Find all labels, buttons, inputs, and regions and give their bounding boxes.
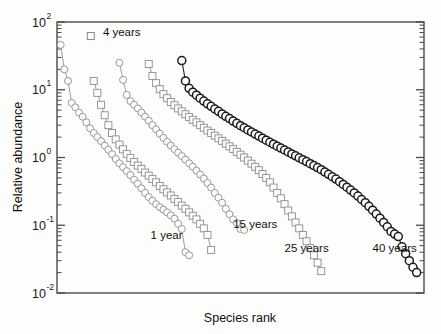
data-point xyxy=(314,259,321,266)
data-point xyxy=(61,66,68,73)
data-point xyxy=(94,89,101,96)
y-tick-label: 10 xyxy=(32,287,46,301)
y-tick-label: 10 xyxy=(32,83,46,97)
x-axis-title: Species rank xyxy=(204,311,277,325)
data-point xyxy=(204,231,211,238)
y-tick-exponent: -1 xyxy=(47,214,55,224)
legend-marker-4-years xyxy=(87,33,94,40)
y-tick-label: 10 xyxy=(32,16,46,30)
data-point xyxy=(120,76,127,83)
data-point xyxy=(296,225,303,232)
y-tick-exponent: 1 xyxy=(47,78,52,88)
series-annotations: 1 year4 years15 years25 years40 years xyxy=(87,26,417,254)
rank-abundance-figure: 10210110010-110-2 1 year4 years15 years2… xyxy=(0,0,441,334)
data-point xyxy=(149,72,156,79)
series-label-15-years: 15 years xyxy=(233,218,277,230)
y-tick-exponent: 0 xyxy=(47,146,52,156)
data-point xyxy=(98,101,105,108)
data-point xyxy=(123,91,130,98)
series-label-40-years: 40 years xyxy=(373,242,417,254)
series-label-4-years: 4 years xyxy=(103,26,141,38)
data-point xyxy=(413,269,421,277)
data-point xyxy=(101,112,108,119)
y-tick-exponent: 2 xyxy=(47,11,52,21)
y-axis-title: Relative abundance xyxy=(11,102,25,213)
data-point xyxy=(394,233,402,241)
data-point xyxy=(178,57,186,65)
y-tick-label: 10 xyxy=(32,219,46,233)
y-tick-exponent: -2 xyxy=(47,282,55,292)
y-tick-label: 10 xyxy=(32,151,46,165)
data-point xyxy=(116,59,123,66)
data-point xyxy=(318,268,325,275)
data-series-group xyxy=(57,41,420,276)
data-point xyxy=(65,77,72,84)
plot-area: 10210110010-110-2 1 year4 years15 years2… xyxy=(0,0,441,334)
data-point xyxy=(186,252,193,259)
data-point xyxy=(145,60,152,67)
data-point xyxy=(57,41,64,48)
data-point xyxy=(90,77,97,84)
data-point xyxy=(208,247,215,254)
data-point xyxy=(200,225,207,232)
data-point xyxy=(105,122,112,129)
series-label-25-years: 25 years xyxy=(285,242,329,254)
series-label-1-year: 1 year xyxy=(151,229,183,241)
data-point xyxy=(109,129,116,136)
y-axis-tick-labels: 10210110010-110-2 xyxy=(32,11,54,301)
